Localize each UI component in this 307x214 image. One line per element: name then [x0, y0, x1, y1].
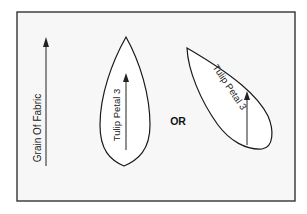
grain-label: Grain Of Fabric: [32, 94, 43, 162]
petal-1-label: Tulip Petal 3: [111, 89, 122, 141]
separator-or: OR: [170, 115, 186, 127]
tulip-petal-grain-diagram: Grain Of Fabric Tulip Petal 3 OR Tulip P…: [0, 0, 307, 214]
